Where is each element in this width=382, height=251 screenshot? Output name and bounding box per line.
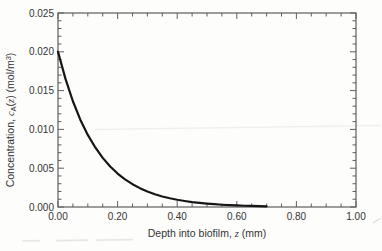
x-tick-label: 0.80 bbox=[287, 210, 306, 223]
x-axis-units: (mm) bbox=[239, 227, 266, 239]
y-tick-label: 0.020 bbox=[22, 45, 54, 58]
y-axis-units-close: ) bbox=[4, 53, 16, 57]
x-tick-label: 0.20 bbox=[108, 210, 127, 223]
y-axis-title: Concentration, cA(z) (mol/m3) bbox=[2, 53, 20, 188]
y-axis-variable: c bbox=[5, 111, 16, 116]
plot-frame bbox=[58, 13, 356, 207]
x-tick-label: 1.00 bbox=[346, 210, 365, 223]
scan-artifact-line bbox=[95, 126, 381, 130]
y-axis-variable-subscript: A bbox=[9, 106, 18, 111]
y-tick-label: 0.010 bbox=[22, 123, 54, 136]
x-axis-title: Depth into biofilm, z (mm) bbox=[148, 227, 266, 240]
x-tick-label: 0.40 bbox=[167, 210, 186, 223]
y-axis-argument: z bbox=[5, 99, 16, 103]
x-tick-label: 0.00 bbox=[48, 210, 67, 223]
y-axis-title-text: Concentration, bbox=[4, 116, 16, 187]
cropped-caption-remnant bbox=[22, 240, 133, 241]
y-axis-paren: ( bbox=[4, 103, 16, 107]
scan-artifact-corner-mark bbox=[373, 218, 381, 223]
y-axis-units: ) (mol/m bbox=[4, 60, 16, 99]
y-tick-label: 0.005 bbox=[22, 162, 54, 175]
biofilm-concentration-figure: 0.025 0.020 0.015 0.010 0.005 0.000 0.00… bbox=[0, 0, 382, 251]
y-tick-label: 0.025 bbox=[22, 7, 54, 20]
x-tick-label: 0.60 bbox=[227, 210, 246, 223]
x-axis-title-text: Depth into biofilm, bbox=[148, 227, 235, 239]
y-tick-label: 0.015 bbox=[22, 84, 54, 97]
y-axis-units-exponent: 3 bbox=[4, 56, 13, 60]
